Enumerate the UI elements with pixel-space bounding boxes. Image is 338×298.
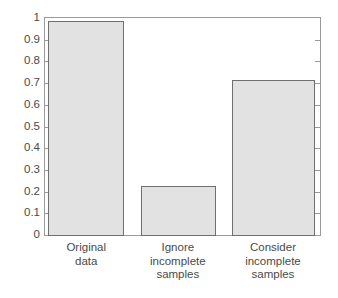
y-axis-tick-labels: 00.10.20.30.40.50.60.70.80.91 <box>0 0 40 298</box>
y-axis-tick-label: 0.2 <box>0 186 40 198</box>
y-axis-tick-label: 0.4 <box>0 142 40 154</box>
y-axis-tick-label: 0.1 <box>0 208 40 220</box>
y-axis-tick-label: 0.7 <box>0 77 40 89</box>
x-axis-tick-label: Ignore incomplete samples <box>128 241 228 282</box>
bar-2 <box>141 186 216 236</box>
bar-3 <box>232 80 315 236</box>
x-axis-tick-label: Original data <box>36 241 136 268</box>
bar-1 <box>48 21 124 236</box>
x-axis-tick-labels: Original dataIgnore incomplete samplesCo… <box>44 241 321 296</box>
bar-chart-figure: 00.10.20.30.40.50.60.70.80.91 Original d… <box>0 0 338 298</box>
y-axis-tick-label: 0.6 <box>0 99 40 111</box>
y-axis-tick-label: 0.3 <box>0 164 40 176</box>
y-axis-tick-label: 0 <box>0 229 40 241</box>
bars-layer <box>45 18 321 236</box>
y-axis-tick-label: 0.5 <box>0 121 40 133</box>
y-axis-tick-label: 0.8 <box>0 56 40 68</box>
x-axis-tick-label: Consider incomplete samples <box>223 241 323 282</box>
y-axis-tick-label: 1 <box>0 12 40 24</box>
y-axis-tick-label: 0.9 <box>0 34 40 46</box>
